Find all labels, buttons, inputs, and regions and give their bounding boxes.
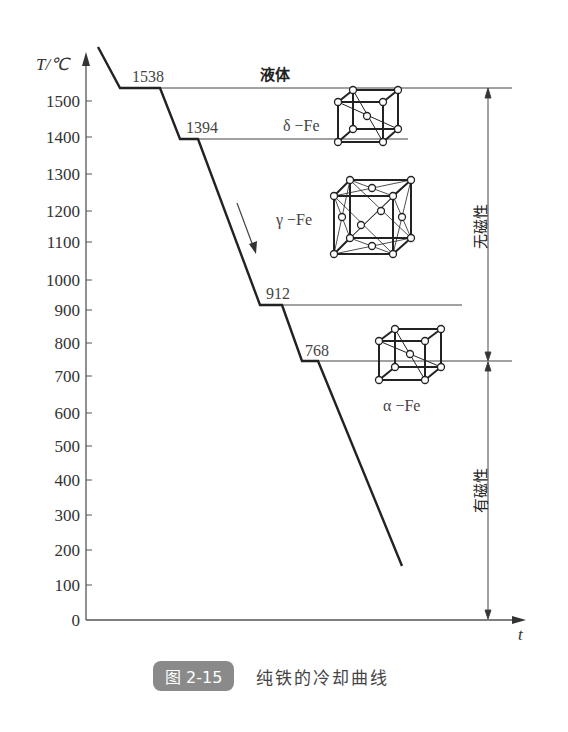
- label-768: 768: [305, 342, 329, 359]
- label-delta-fe: δ −Fe: [283, 117, 320, 134]
- svg-text:1100: 1100: [47, 233, 80, 252]
- label-1538: 1538: [132, 68, 164, 85]
- y-ticks: 1500 1400 1300 1200 1100 1000 900 800 70…: [46, 92, 92, 630]
- svg-text:1000: 1000: [46, 271, 80, 290]
- svg-text:1300: 1300: [46, 165, 80, 184]
- label-1394: 1394: [186, 119, 218, 136]
- svg-text:800: 800: [55, 334, 81, 353]
- label-magnetic: 有磁性: [472, 468, 490, 513]
- magnetism-dimension: [485, 88, 491, 619]
- x-axis-label: t: [518, 625, 524, 644]
- svg-text:600: 600: [55, 404, 81, 423]
- label-912: 912: [266, 285, 290, 302]
- delta-fe-bcc-icon: [335, 87, 402, 146]
- svg-text:100: 100: [55, 576, 81, 595]
- label-gamma-fe: γ −Fe: [275, 211, 312, 229]
- figure-caption: 图 2-15 纯铁的冷却曲线: [153, 661, 389, 691]
- svg-text:1500: 1500: [46, 92, 80, 111]
- cooling-curve-chart: T/℃ t 1500 1400 1300 1200 1100 1000 900 …: [0, 0, 568, 732]
- label-nonmagnetic: 无磁性: [472, 204, 490, 249]
- cooling-direction-arrow: [237, 203, 257, 254]
- label-alpha-fe: α −Fe: [383, 397, 420, 414]
- gamma-fe-fcc-icon: [331, 177, 415, 258]
- figure-number-badge: 图 2-15: [153, 661, 234, 691]
- svg-text:300: 300: [55, 506, 81, 525]
- svg-text:1200: 1200: [46, 202, 80, 221]
- svg-text:200: 200: [55, 541, 81, 560]
- svg-text:900: 900: [55, 301, 81, 320]
- svg-text:400: 400: [55, 471, 81, 490]
- alpha-fe-bcc-icon: [376, 326, 445, 384]
- svg-text:1400: 1400: [46, 128, 80, 147]
- svg-text:500: 500: [55, 437, 81, 456]
- svg-text:0: 0: [72, 611, 81, 630]
- svg-text:700: 700: [55, 367, 81, 386]
- cooling-curve: [98, 47, 402, 566]
- x-axis: [86, 616, 526, 624]
- label-liquid: 液体: [260, 66, 291, 84]
- y-axis-label: T/℃: [36, 55, 71, 74]
- figure-title: 纯铁的冷却曲线: [256, 664, 389, 689]
